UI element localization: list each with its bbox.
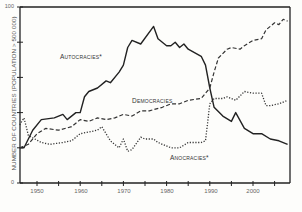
series-autocracies	[20, 26, 288, 147]
plot-frame	[20, 7, 290, 183]
y-tick-0: 0	[4, 179, 14, 185]
series-democracies	[20, 19, 288, 148]
line-chart	[0, 0, 301, 212]
label-autocracies: Autocracies*	[60, 53, 102, 60]
label-democracies: Democracies	[132, 97, 173, 104]
source-note: Source: Marshall and Cole 2009	[300, 31, 302, 161]
x-tick-1950: 1950	[25, 188, 49, 194]
y-tick-100: 100	[4, 3, 14, 9]
y-axis-label: NUMBER OF COUNTRIES (POPULATION > 500 00…	[10, 21, 17, 171]
series-lines	[20, 19, 288, 151]
x-tick-1990: 1990	[199, 188, 223, 194]
x-tick-1960: 1960	[69, 188, 93, 194]
x-tick-1970: 1970	[112, 188, 136, 194]
x-tick-2000: 2000	[241, 188, 265, 194]
label-anocracies: Anocracies*	[170, 154, 209, 161]
x-tick-1980: 1980	[155, 188, 179, 194]
